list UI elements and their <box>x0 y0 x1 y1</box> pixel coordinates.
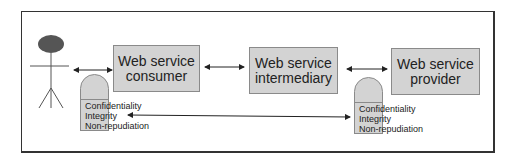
box-label-line1: Web service <box>392 57 479 72</box>
security-item-integrity: Integrity <box>85 111 149 121</box>
security-list-left: Confidentiality Integrity Non-repudiatio… <box>85 101 149 131</box>
actor-head-icon <box>38 35 64 53</box>
box-label-line2: intermediary <box>250 71 337 86</box>
box-label-line1: Web service <box>114 54 199 69</box>
security-item-integrity: Integrity <box>359 114 423 124</box>
arrow-security-end-to-end <box>128 115 350 117</box>
box-web-service-provider: Web serviceprovider <box>391 48 480 95</box>
actor-stick-figure <box>30 35 69 108</box>
box-web-service-intermediary: Web serviceintermediary <box>249 47 338 94</box>
security-list-right: Confidentiality Integrity Non-repudiatio… <box>359 104 423 134</box>
box-label-line2: consumer <box>114 69 199 84</box>
security-item-non-repudiation: Non-repudiation <box>359 124 423 134</box>
security-item-confidentiality: Confidentiality <box>85 101 149 111</box>
box-label-line2: provider <box>392 72 479 87</box>
security-item-confidentiality: Confidentiality <box>359 104 423 114</box>
box-label-line1: Web service <box>250 56 337 71</box>
security-item-non-repudiation: Non-repudiation <box>85 121 149 131</box>
box-web-service-consumer: Web serviceconsumer <box>113 45 200 92</box>
